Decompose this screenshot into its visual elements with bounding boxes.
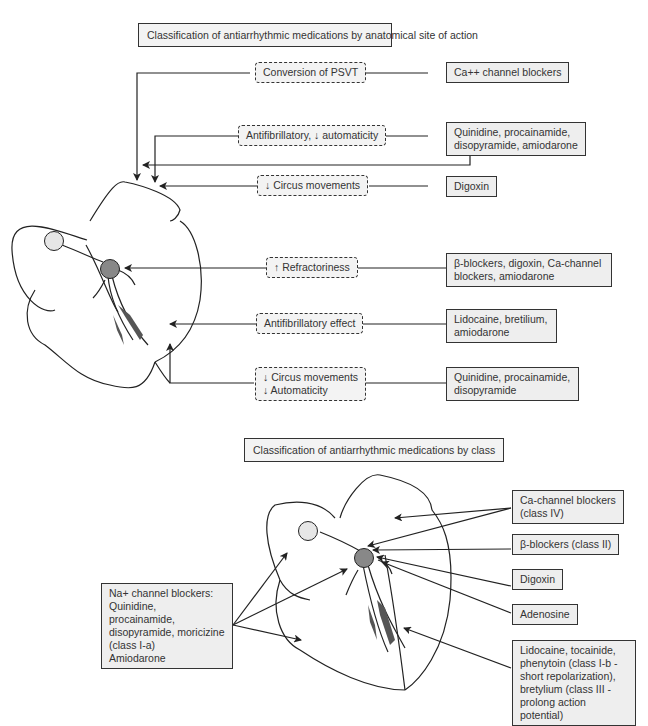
sa-node-top [45, 232, 64, 251]
drug-line: amiodarone [454, 326, 549, 339]
box-line: bretylium (class III - [520, 683, 628, 696]
drug-line: Quinidine, procainamide, [454, 371, 571, 384]
drug-ca-channel-blockers: Ca++ channel blockers [446, 62, 569, 83]
bundle-bottom [377, 600, 395, 645]
effect-refractoriness: ↑ Refractoriness [266, 257, 358, 278]
drug-line: disopyramide, amiodarone [454, 139, 578, 152]
effect-line-1: ↓ Circus movements [263, 371, 358, 384]
box-line: phenytoin (class I-b - [520, 657, 628, 670]
adenosine-box: Adenosine [512, 604, 578, 625]
class-ia-box: Na+ channel blockers: Quinidine, procain… [101, 583, 233, 669]
class-ii-box: β-blockers (class II) [512, 534, 619, 555]
heart-outline-bottom [267, 475, 451, 690]
drug-line: Lidocaine, bretilium, [454, 313, 549, 326]
effect-antifibrillatory: Antifibrillatory effect [256, 313, 363, 334]
box-line: Amiodarone [109, 652, 225, 665]
drug-line: Quinidine, procainamide, [454, 126, 578, 139]
drug-line: disopyramide [454, 384, 571, 397]
heart-outline-top [12, 182, 201, 388]
box-line: (class I-a) [109, 639, 225, 652]
effect-conversion-psvt: Conversion of PSVT [255, 62, 366, 83]
box-line: (class IV) [520, 507, 616, 520]
drug-line: blockers, amiodarone [454, 270, 604, 283]
drug-quinidine-disopyramide: Quinidine, procainamide, disopyramide [446, 367, 579, 401]
top-section-title: Classification of antiarrhythmic medicat… [138, 23, 392, 47]
drug-lidocaine-bretilium: Lidocaine, bretilium, amiodarone [446, 309, 557, 343]
box-line: short repolarization), [520, 670, 628, 683]
box-line: Ca-channel blockers [520, 494, 616, 507]
box-line: disopyramide, moricizine [109, 626, 225, 639]
effect-circus-movements: ↓ Circus movements [257, 175, 368, 196]
drug-quinidine-amiodarone: Quinidine, procainamide, disopyramide, a… [446, 122, 586, 156]
box-line: Lidocaine, tocainide, [520, 644, 628, 657]
class-ib-iii-box: Lidocaine, tocainide, phenytoin (class I… [512, 640, 636, 726]
av-node-top [101, 260, 120, 279]
bottom-section-title: Classification of antiarrhythmic medicat… [244, 438, 504, 462]
box-line: Quinidine, procainamide, [109, 600, 225, 626]
digoxin-box: Digoxin [512, 569, 563, 590]
box-line: Na+ channel blockers: [109, 587, 225, 600]
av-node-bottom [355, 549, 374, 568]
drug-beta-blockers: β-blockers, digoxin, Ca-channel blockers… [446, 253, 612, 287]
box-line: prolong action potential) [520, 696, 628, 722]
effect-circus-automaticity: ↓ Circus movements ↓ Automaticity [255, 367, 366, 401]
drug-digoxin: Digoxin [446, 176, 497, 197]
drug-line: β-blockers, digoxin, Ca-channel [454, 257, 604, 270]
effect-line-2: ↓ Automaticity [263, 384, 358, 397]
sa-node-bottom [299, 522, 318, 541]
class-iv-box: Ca-channel blockers (class IV) [512, 490, 624, 524]
effect-antifibrillatory-automaticity: Antifibrillatory, ↓ automaticity [238, 125, 386, 146]
